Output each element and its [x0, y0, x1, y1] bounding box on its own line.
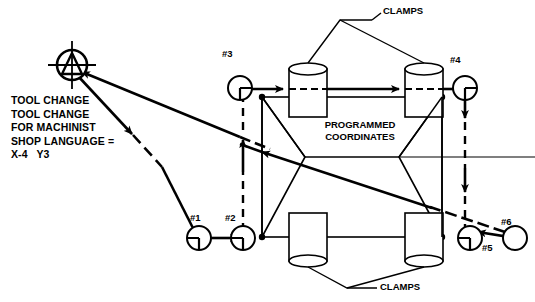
point-label-1: #1 — [190, 212, 201, 223]
point-label-6: #6 — [501, 216, 512, 227]
point-label-2: #2 — [225, 212, 236, 223]
clamp-top-left — [289, 63, 327, 117]
clamp-bottom-right — [405, 213, 443, 267]
diagram-canvas: TOOL CHANGE TOOL CHANGE FOR MACHINIST SH… — [0, 0, 535, 302]
point-label-3: #3 — [222, 48, 233, 59]
tool-change-target-icon — [48, 41, 96, 89]
clamps-top-label: CLAMPS — [383, 5, 423, 16]
point-label-5: #5 — [482, 242, 493, 253]
clamp-top-right — [405, 63, 443, 117]
programmed-coordinates-label: PROGRAMMED COORDINATES — [301, 119, 419, 143]
point-markers — [187, 76, 527, 250]
clamp-leader-top — [308, 13, 424, 63]
clamp-bottom-left — [289, 213, 327, 267]
point-label-4: #4 — [450, 54, 461, 65]
clamps-bottom-label: CLAMPS — [380, 281, 420, 292]
tool-change-note: TOOL CHANGE TOOL CHANGE FOR MACHINIST SH… — [11, 94, 114, 162]
